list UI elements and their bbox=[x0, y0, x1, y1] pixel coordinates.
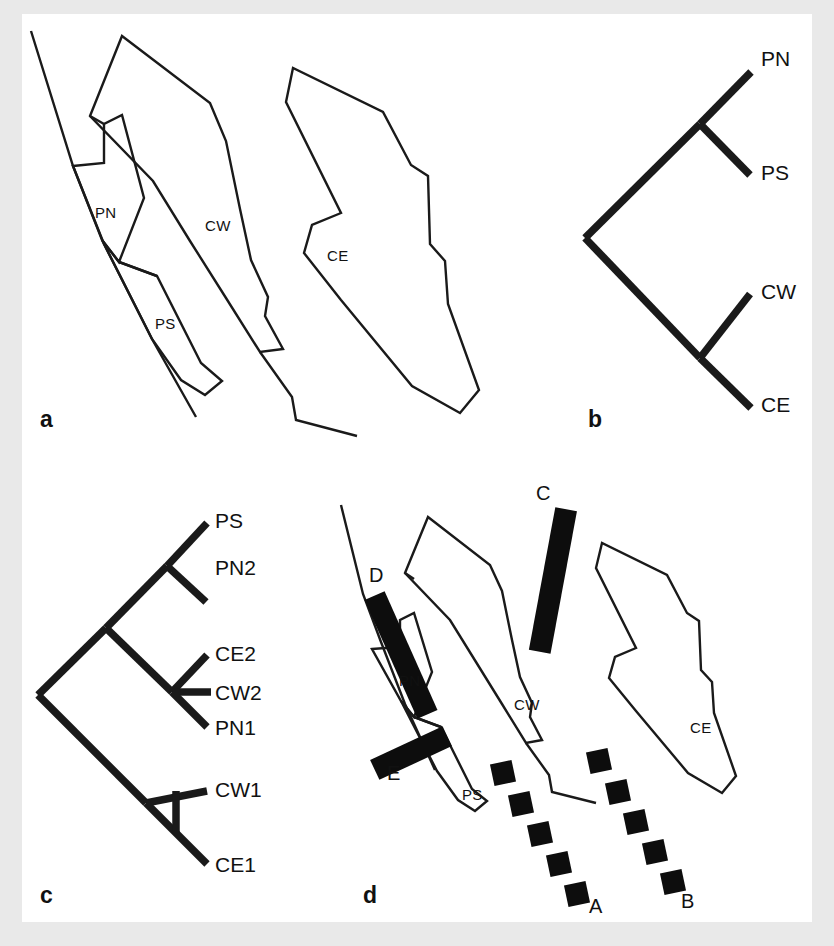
panel-letter-d: d bbox=[363, 882, 377, 908]
panel-a-west-coastline bbox=[31, 31, 196, 417]
panel-b-tip-pn: PN bbox=[761, 47, 790, 70]
panel-d-barrier-a-segment bbox=[490, 760, 516, 786]
panel-c-branch-upper-to-trifurcation bbox=[106, 628, 172, 692]
panel-c-branch-pn2 bbox=[167, 566, 206, 602]
panel-b-tip-cw: CW bbox=[761, 280, 796, 303]
panel-d-barrier-label-c: C bbox=[536, 482, 550, 504]
panel-a-region-ce bbox=[286, 68, 479, 413]
panel-c-tip-ce1: CE1 bbox=[215, 853, 256, 876]
panel-d-barrier-e bbox=[370, 726, 452, 780]
panel-a-label-ps: PS bbox=[155, 315, 176, 332]
panel-a-region-cw bbox=[90, 36, 283, 352]
panel-b-tip-ce: CE bbox=[761, 393, 790, 416]
panel-d-barrier-b bbox=[586, 748, 686, 895]
panel-d-barrier-b-segment bbox=[586, 748, 612, 774]
panel-d-barrier-b-segment bbox=[642, 839, 668, 865]
panel-b-tip-ps: PS bbox=[761, 161, 789, 184]
panel-b-branch-cw bbox=[700, 294, 750, 358]
panel-a-region-pn bbox=[73, 115, 144, 262]
panel-c-tip-cw1: CW1 bbox=[215, 778, 262, 801]
panel-d-barrier-a-segment bbox=[546, 851, 572, 877]
panel-d-barrier-label-b: B bbox=[681, 890, 694, 912]
panel-b-branch-ce bbox=[700, 358, 751, 408]
panel-b-branch-pn bbox=[700, 72, 751, 124]
panel-c-tip-pn1: PN1 bbox=[215, 716, 256, 739]
panel-b-cladogram: PN PS CW CE b bbox=[585, 47, 796, 432]
panel-d-barrier-a bbox=[490, 760, 590, 907]
panel-a-pn-ps-divider bbox=[119, 262, 157, 276]
panel-a-label-pn: PN bbox=[95, 204, 116, 221]
panel-c-tip-pn2: PN2 bbox=[215, 556, 256, 579]
panel-d-barrier-label-a: A bbox=[589, 895, 603, 917]
panel-b-branch-root-lower bbox=[585, 238, 700, 358]
panel-letter-a: a bbox=[40, 406, 53, 432]
panel-d-label-ce: CE bbox=[690, 719, 711, 736]
panel-d-barrier-b-segment bbox=[605, 779, 631, 805]
figure-root: PN PS CW CE a PN PS CW CE b bbox=[0, 0, 834, 946]
panel-c-branch-pn1 bbox=[172, 692, 207, 727]
panel-letter-c: c bbox=[40, 882, 53, 908]
panel-d-cw-east-coastline bbox=[526, 743, 596, 803]
panel-c-branch-upper-to-psclade bbox=[106, 566, 167, 628]
panel-c-tip-ps: PS bbox=[215, 509, 243, 532]
panel-d-map: PN PS CW CE A B C D E d bbox=[341, 482, 736, 917]
figure-svg: PN PS CW CE a PN PS CW CE b bbox=[0, 0, 834, 946]
panel-c-branch-ce2 bbox=[172, 655, 207, 692]
panel-c-tip-cw2: CW2 bbox=[215, 681, 262, 704]
panel-d-barrier-a-segment bbox=[564, 881, 590, 907]
panel-b-branch-ps bbox=[700, 124, 750, 175]
panel-c-cladogram: PS PN2 CE2 CW2 PN1 CW1 CE1 c bbox=[38, 509, 262, 908]
panel-letter-b: b bbox=[588, 406, 602, 432]
panel-a-east-coastline bbox=[260, 352, 357, 436]
panel-b-branch-root-upper bbox=[585, 124, 700, 238]
panel-a-map: PN PS CW CE a bbox=[31, 31, 479, 436]
panel-d-barrier-c bbox=[529, 507, 577, 654]
panel-c-branch-root-upper bbox=[38, 628, 106, 695]
panel-d-region-ce bbox=[596, 543, 736, 793]
panel-d-label-pn: PN bbox=[399, 672, 420, 689]
panel-d-barrier-label-d: D bbox=[369, 564, 383, 586]
panel-c-branch-root-lower bbox=[38, 695, 146, 803]
panel-d-barrier-b-segment bbox=[623, 809, 649, 835]
panel-d-barrier-a-segment bbox=[508, 791, 534, 817]
panel-d-barrier-label-e: E bbox=[387, 762, 400, 784]
panel-c-tip-ce2: CE2 bbox=[215, 642, 256, 665]
panel-d-barrier-a-segment bbox=[527, 821, 553, 847]
panel-d-label-ps: PS bbox=[462, 786, 483, 803]
panel-d-label-cw: CW bbox=[514, 696, 540, 713]
panel-a-label-ce: CE bbox=[327, 247, 348, 264]
panel-c-branch-ps bbox=[167, 523, 207, 566]
panel-a-label-cw: CW bbox=[205, 217, 231, 234]
